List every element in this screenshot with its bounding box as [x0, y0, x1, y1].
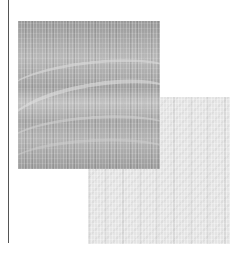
dark-textured-panel — [18, 21, 160, 169]
vertical-rule — [8, 0, 9, 243]
